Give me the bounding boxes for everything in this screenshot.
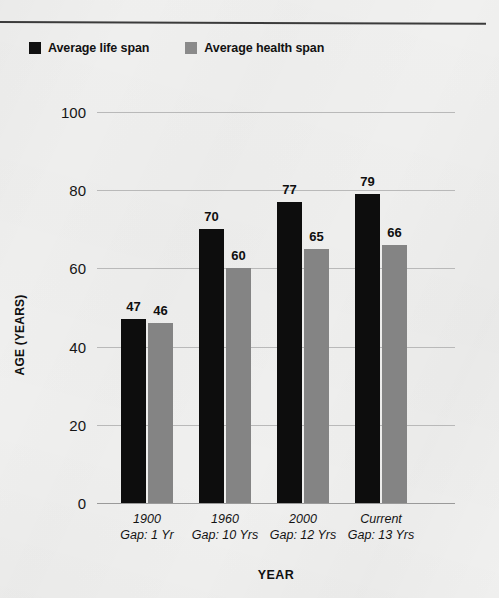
x-category-gap-1960: Gap: 10 Yrs: [192, 528, 258, 542]
bar-life-span-current[interactable]: 79: [355, 194, 380, 503]
x-category-name-1960: 1960: [192, 512, 258, 526]
bar-group-1960: 70 60 1960 Gap: 10 Yrs: [199, 112, 251, 503]
bar-health-span-current[interactable]: 66: [382, 245, 407, 503]
bar-value-health-span-2000: 65: [309, 229, 323, 244]
x-category-2000: 2000 Gap: 12 Yrs: [270, 512, 336, 542]
bar-value-life-span-1960: 70: [204, 209, 218, 224]
bar-value-health-span-current: 66: [387, 225, 401, 240]
bar-life-span-1960[interactable]: 70: [199, 229, 224, 503]
bar-health-span-1900[interactable]: 46: [148, 323, 173, 503]
bar-value-life-span-1900: 47: [126, 299, 140, 314]
bar-value-life-span-2000: 77: [282, 182, 296, 197]
legend-item-health-span: Average health span: [185, 41, 324, 55]
bar-life-span-1900[interactable]: 47: [121, 319, 146, 503]
legend-label-life-span: Average life span: [48, 41, 149, 55]
x-category-1960: 1960 Gap: 10 Yrs: [192, 512, 258, 542]
y-tick-label-0: 0: [78, 495, 86, 512]
chart-page: Average life span Average health span AG…: [0, 0, 499, 598]
bar-value-health-span-1960: 60: [231, 248, 245, 263]
y-tick-label-20: 20: [69, 417, 86, 434]
y-tick-label-100: 100: [61, 104, 86, 121]
bar-health-span-1960[interactable]: 60: [226, 268, 251, 503]
y-axis-title: AGE (YEARS): [13, 295, 27, 376]
chart-legend: Average life span Average health span: [29, 41, 324, 55]
bar-group-2000: 77 65 2000 Gap: 12 Yrs: [277, 112, 329, 503]
legend-label-health-span: Average health span: [204, 41, 324, 55]
bar-value-health-span-1900: 46: [153, 303, 167, 318]
x-category-gap-current: Gap: 13 Yrs: [348, 528, 414, 542]
x-category-gap-1900: Gap: 1 Yr: [120, 528, 173, 542]
plot-area: 100 80 60 40 20 0 47 46 1900 Gap: 1 Y: [97, 112, 455, 503]
legend-swatch-health-span-icon: [185, 42, 197, 54]
legend-swatch-life-span-icon: [29, 42, 41, 54]
x-category-gap-2000: Gap: 12 Yrs: [270, 528, 336, 542]
y-tick-label-40: 40: [69, 339, 86, 356]
x-axis-title: YEAR: [258, 568, 294, 582]
bar-group-current: 79 66 Current Gap: 13 Yrs: [355, 112, 407, 503]
y-tick-label-80: 80: [69, 182, 86, 199]
bar-health-span-2000[interactable]: 65: [304, 249, 329, 503]
bar-value-life-span-current: 79: [360, 174, 374, 189]
gridline-0-baseline: 0: [97, 503, 455, 504]
x-category-name-2000: 2000: [270, 512, 336, 526]
bar-group-1900: 47 46 1900 Gap: 1 Yr: [121, 112, 173, 503]
x-category-1900: 1900 Gap: 1 Yr: [120, 512, 173, 542]
header-divider: [0, 21, 486, 25]
legend-item-life-span: Average life span: [29, 41, 149, 55]
bar-life-span-2000[interactable]: 77: [277, 202, 302, 503]
x-category-name-1900: 1900: [120, 512, 173, 526]
x-category-name-current: Current: [348, 512, 414, 526]
y-tick-label-60: 60: [69, 260, 86, 277]
x-category-current: Current Gap: 13 Yrs: [348, 512, 414, 542]
